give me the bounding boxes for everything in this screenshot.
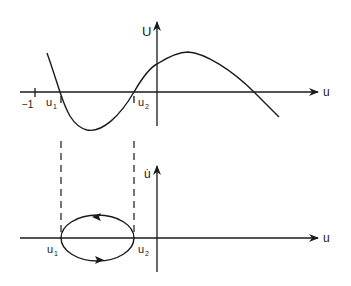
svg-text:1: 1 [54, 250, 58, 257]
bottom-u2-label: u 2 [138, 243, 149, 257]
potential-curve [47, 52, 279, 130]
bottom-udot-axis-label: u̇ [144, 167, 151, 181]
svg-text:u: u [138, 243, 144, 255]
bottom-u1-label: u 1 [47, 243, 58, 257]
top-u1-label: u 1 [46, 96, 57, 110]
minus-one-label: −1 [22, 99, 34, 110]
bottom-u-axis-label: u [323, 231, 330, 245]
top-U-axis-label: U [142, 24, 151, 39]
svg-text:1: 1 [53, 103, 57, 110]
svg-text:u: u [138, 96, 144, 108]
orbit-arrow-top-icon [92, 213, 101, 221]
phase-portrait-plot: u̇ u u 1 u 2 [20, 166, 330, 272]
svg-text:2: 2 [145, 250, 149, 257]
svg-text:u: u [47, 243, 53, 255]
potential-plot: U u −1 u 1 u 2 [20, 22, 330, 130]
top-u2-label: u 2 [138, 96, 149, 110]
svg-text:u: u [46, 96, 52, 108]
orbit-arrow-bottom-icon [95, 256, 104, 264]
svg-text:2: 2 [145, 103, 149, 110]
top-u-axis-label: u [323, 85, 330, 99]
phase-diagram-figure: U u −1 u 1 u 2 u̇ u u 1 u 2 [0, 0, 351, 286]
